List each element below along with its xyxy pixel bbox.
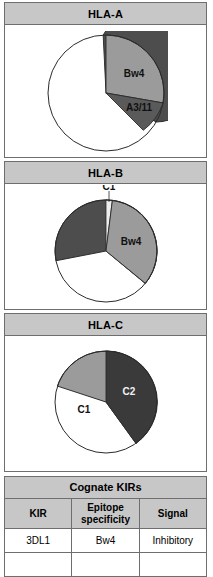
column-header-epitope-specificity: Epitope specificity [72, 499, 139, 529]
panel-hla-c-body: C2 C1 [4, 336, 207, 472]
table-title-row: Cognate KIRs [5, 477, 207, 499]
table-row-clipped [5, 553, 207, 577]
table-row: 3DL1 Bw4 Inhibitory [5, 529, 207, 553]
cell-kir: 3DL1 [5, 529, 72, 553]
pie-svg-hla-b: C1 Bw4 [42, 185, 170, 307]
panel-hla-b-header: HLA-B [4, 161, 207, 184]
cell-kir-clipped [5, 553, 72, 577]
panel-hla-a-body: Bw4 A3/11 [4, 25, 207, 158]
column-header-kir: KIR [5, 499, 72, 529]
panel-hla-b-body: C1 Bw4 [4, 184, 207, 310]
pie-label-hla-c-c2: C2 [122, 386, 135, 397]
cell-epitope: Bw4 [72, 529, 139, 553]
pie-chart-hla-c: C2 C1 [5, 336, 206, 471]
pie-svg-hla-c: C2 C1 [51, 347, 161, 457]
column-header-epitope-line2: specificity [81, 514, 130, 525]
pie-label-hla-a-bw4: Bw4 [123, 68, 144, 79]
panel-hla-a: HLA-A Bw4 A3/11 [4, 2, 207, 158]
panel-hla-c-title: HLA-C [88, 319, 123, 331]
pie-svg-hla-a: Bw4 A3/11 [44, 31, 168, 155]
panel-hla-c-header: HLA-C [4, 313, 207, 336]
pie-chart-hla-a: Bw4 A3/11 [5, 25, 206, 157]
pie-slice-hla-c-c2 [106, 351, 157, 444]
cell-signal: Inhibitory [139, 529, 206, 553]
cognate-kirs-title: Cognate KIRs [5, 477, 207, 499]
cognate-kirs-table: Cognate KIRs KIR Epitope specificity Sig… [4, 476, 207, 577]
pie-label-hla-b-c1: C1 [102, 185, 115, 192]
column-header-epitope-line1: Epitope [87, 502, 124, 513]
pie-label-hla-c-c1: C1 [77, 404, 90, 415]
table-header-row: KIR Epitope specificity Signal [5, 499, 207, 529]
panel-hla-b: HLA-B C1 Bw4 [4, 161, 207, 310]
pie-chart-hla-b: C1 Bw4 [5, 184, 206, 309]
cell-signal-clipped [139, 553, 206, 577]
panel-hla-a-title: HLA-A [88, 8, 123, 20]
panel-hla-a-header: HLA-A [4, 2, 207, 25]
pie-label-hla-b-bw4: Bw4 [120, 236, 141, 247]
panel-hla-b-title: HLA-B [88, 167, 123, 179]
pie-label-hla-a-a311: A3/11 [125, 102, 152, 113]
column-header-signal: Signal [139, 499, 206, 529]
panel-hla-c: HLA-C C2 C1 [4, 313, 207, 472]
cell-epitope-clipped [72, 553, 139, 577]
